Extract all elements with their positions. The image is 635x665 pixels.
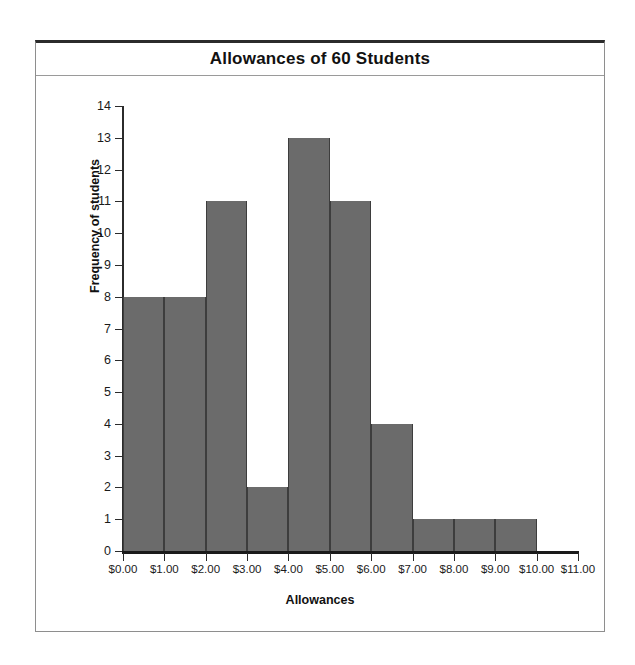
y-axis-tick: [115, 201, 122, 202]
x-axis-tick-label: $7.00: [398, 564, 427, 576]
x-axis-tick-label: $9.00: [481, 564, 510, 576]
x-axis-tick: [330, 553, 331, 561]
y-axis-tick: [115, 456, 122, 457]
y-axis-tick-label: 3: [104, 449, 111, 462]
histogram-bar: [371, 424, 412, 551]
x-axis-tick-label: $8.00: [440, 564, 469, 576]
x-axis-line: [122, 551, 579, 554]
histogram-bar: [123, 297, 164, 551]
y-axis-tick: [115, 519, 122, 520]
x-axis-tick: [578, 553, 579, 561]
y-axis-tick: [115, 360, 122, 361]
x-axis-tick-label: $4.00: [274, 564, 303, 576]
y-axis-tick-label: 2: [104, 481, 111, 494]
x-axis-tick: [454, 553, 455, 561]
y-axis-tick-label: 0: [104, 545, 111, 558]
x-axis-tick-label: $11.00: [561, 564, 595, 576]
y-axis-tick-label: 8: [104, 290, 111, 303]
y-axis-tick-label: 6: [104, 354, 111, 367]
x-axis-tick-label: $10.00: [519, 564, 554, 576]
x-axis-tick: [247, 553, 248, 561]
x-axis-tick: [164, 553, 165, 561]
x-axis-tick: [123, 553, 124, 561]
x-axis-title: Allowances: [36, 593, 604, 607]
x-axis-tick-label: $1.00: [150, 564, 179, 576]
y-axis-tick: [115, 106, 122, 107]
histogram-bar: [495, 519, 536, 551]
plot-area: 01234567891011121314 $0.00$1.00$2.00$3.0…: [123, 106, 578, 551]
histogram-bar: [330, 201, 371, 551]
x-axis-tick: [371, 553, 372, 561]
y-axis-tick-label: 7: [104, 322, 111, 335]
y-axis-tick: [115, 297, 122, 298]
x-axis-tick: [288, 553, 289, 561]
x-axis-tick: [495, 553, 496, 561]
y-axis-tick-label: 5: [104, 386, 111, 399]
x-axis-tick: [537, 553, 538, 561]
x-axis-tick: [413, 553, 414, 561]
chart-title-band: Allowances of 60 Students: [36, 43, 604, 76]
histogram-bar: [413, 519, 454, 551]
page-title: Allowances of 60 Students: [210, 49, 430, 69]
histogram-bar: [164, 297, 205, 551]
x-axis-tick: [206, 553, 207, 561]
y-axis-tick: [115, 487, 122, 488]
y-axis-tick: [115, 233, 122, 234]
y-axis-title: Frequency of students: [88, 159, 102, 293]
y-axis-tick-label: 14: [97, 100, 111, 113]
figure-frame: Allowances of 60 Students 01234567891011…: [35, 40, 605, 632]
x-axis-tick-label: $2.00: [191, 564, 220, 576]
y-axis-tick-label: 9: [104, 259, 111, 272]
histogram-bar: [288, 138, 329, 551]
y-axis-tick: [115, 138, 122, 139]
y-axis-tick: [115, 170, 122, 171]
x-axis-tick-label: $3.00: [233, 564, 262, 576]
histogram-bar: [206, 201, 247, 551]
y-axis-tick-label: 4: [104, 418, 111, 431]
y-axis-tick: [115, 392, 122, 393]
y-axis-tick: [115, 265, 122, 266]
y-axis-tick: [115, 329, 122, 330]
y-axis-tick-label: 1: [104, 513, 111, 526]
y-axis-tick-label: 13: [97, 132, 111, 145]
x-axis-tick-label: $0.00: [109, 564, 138, 576]
histogram-bar: [454, 519, 495, 551]
x-axis-tick-label: $5.00: [315, 564, 344, 576]
x-axis-tick-label: $6.00: [357, 564, 386, 576]
y-axis-tick: [115, 551, 122, 552]
y-axis-tick: [115, 424, 122, 425]
histogram-bar: [247, 487, 288, 551]
